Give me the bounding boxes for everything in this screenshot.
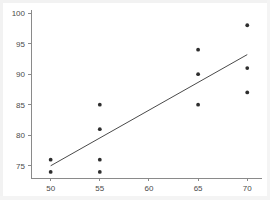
x-tick-label: 70 (243, 184, 252, 193)
data-point (245, 91, 249, 95)
y-tick-label: 95 (16, 40, 25, 49)
y-tick-label: 90 (16, 70, 25, 79)
data-point-group (49, 23, 249, 173)
data-point (98, 158, 102, 162)
x-tick-group: 5055606570 (46, 178, 252, 193)
x-tick-label: 60 (145, 184, 154, 193)
y-tick-label: 100 (12, 9, 26, 18)
regression-line-group (51, 55, 248, 166)
data-point (49, 170, 53, 174)
x-tick-label: 65 (194, 184, 203, 193)
data-point (98, 170, 102, 174)
data-point (196, 103, 200, 107)
scatter-plot-figure: 7580859095100 5055606570 (0, 0, 270, 200)
data-point (98, 127, 102, 131)
regression-line (51, 55, 248, 166)
data-point (49, 158, 53, 162)
data-point (196, 72, 200, 76)
x-tick-label: 50 (46, 184, 55, 193)
data-point (245, 23, 249, 27)
data-point (98, 103, 102, 107)
y-tick-group: 7580859095100 (12, 9, 31, 171)
y-tick-label: 80 (16, 131, 25, 140)
x-tick-label: 55 (95, 184, 104, 193)
data-point (196, 48, 200, 52)
data-point (245, 66, 249, 70)
plot-canvas: 7580859095100 5055606570 (0, 0, 270, 200)
y-tick-label: 85 (16, 101, 25, 110)
y-tick-label: 75 (16, 162, 25, 171)
